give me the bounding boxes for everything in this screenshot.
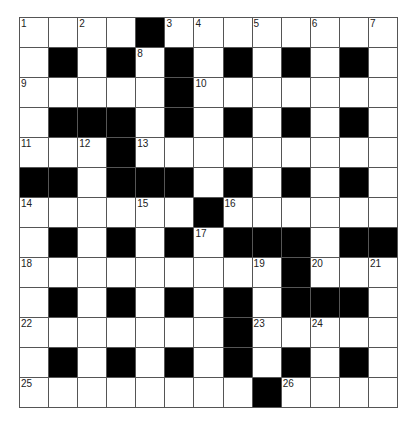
crossword-cell[interactable] [107,318,135,347]
crossword-cell[interactable] [194,318,222,347]
crossword-cell[interactable]: 7 [369,18,397,47]
crossword-cell[interactable] [107,78,135,107]
crossword-cell[interactable]: 11 [20,138,48,167]
crossword-cell[interactable]: 10 [194,78,222,107]
crossword-cell[interactable] [340,198,368,227]
crossword-cell[interactable] [340,18,368,47]
crossword-cell[interactable] [253,48,281,77]
crossword-cell[interactable] [49,198,77,227]
crossword-cell[interactable] [340,138,368,167]
crossword-cell[interactable] [311,108,339,137]
crossword-cell[interactable] [78,378,106,407]
crossword-cell[interactable] [224,378,252,407]
crossword-cell[interactable] [340,318,368,347]
crossword-cell[interactable] [253,108,281,137]
crossword-cell[interactable]: 25 [20,378,48,407]
crossword-cell[interactable] [369,348,397,377]
crossword-cell[interactable] [136,78,164,107]
crossword-cell[interactable] [194,138,222,167]
crossword-cell[interactable]: 15 [136,198,164,227]
crossword-cell[interactable] [78,318,106,347]
crossword-cell[interactable] [49,18,77,47]
crossword-cell[interactable]: 13 [136,138,164,167]
crossword-cell[interactable] [194,288,222,317]
crossword-cell[interactable] [49,258,77,287]
crossword-cell[interactable] [369,318,397,347]
crossword-cell[interactable] [224,78,252,107]
crossword-cell[interactable]: 4 [194,18,222,47]
crossword-cell[interactable]: 19 [253,258,281,287]
crossword-cell[interactable] [311,348,339,377]
crossword-cell[interactable] [136,108,164,137]
crossword-cell[interactable]: 2 [78,18,106,47]
crossword-cell[interactable] [340,258,368,287]
crossword-cell[interactable] [369,378,397,407]
crossword-cell[interactable]: 12 [78,138,106,167]
crossword-cell[interactable] [282,198,310,227]
crossword-cell[interactable] [311,168,339,197]
crossword-cell[interactable]: 22 [20,318,48,347]
crossword-cell[interactable] [311,138,339,167]
crossword-cell[interactable] [78,348,106,377]
crossword-cell[interactable] [369,108,397,137]
crossword-cell[interactable] [340,378,368,407]
crossword-cell[interactable] [107,378,135,407]
crossword-cell[interactable] [165,138,193,167]
crossword-cell[interactable]: 21 [369,258,397,287]
crossword-cell[interactable] [107,18,135,47]
crossword-cell[interactable] [78,228,106,257]
crossword-cell[interactable]: 6 [311,18,339,47]
crossword-cell[interactable] [311,78,339,107]
crossword-cell[interactable] [194,258,222,287]
crossword-cell[interactable] [20,348,48,377]
crossword-cell[interactable] [78,168,106,197]
crossword-cell[interactable] [194,378,222,407]
crossword-cell[interactable]: 20 [311,258,339,287]
crossword-cell[interactable] [20,48,48,77]
crossword-cell[interactable] [136,228,164,257]
crossword-cell[interactable] [194,168,222,197]
crossword-cell[interactable]: 5 [253,18,281,47]
crossword-cell[interactable] [20,228,48,257]
crossword-cell[interactable] [253,138,281,167]
crossword-cell[interactable] [20,108,48,137]
crossword-cell[interactable]: 23 [253,318,281,347]
crossword-cell[interactable] [107,198,135,227]
crossword-cell[interactable] [311,378,339,407]
crossword-cell[interactable]: 14 [20,198,48,227]
crossword-cell[interactable] [136,258,164,287]
crossword-cell[interactable] [165,198,193,227]
crossword-cell[interactable] [224,138,252,167]
crossword-cell[interactable] [49,78,77,107]
crossword-cell[interactable] [369,78,397,107]
crossword-cell[interactable] [253,78,281,107]
crossword-cell[interactable]: 9 [20,78,48,107]
crossword-cell[interactable] [224,18,252,47]
crossword-cell[interactable] [224,258,252,287]
crossword-cell[interactable] [136,378,164,407]
crossword-cell[interactable] [165,378,193,407]
crossword-cell[interactable]: 16 [224,198,252,227]
crossword-cell[interactable] [282,318,310,347]
crossword-cell[interactable] [78,258,106,287]
crossword-cell[interactable] [369,138,397,167]
crossword-cell[interactable]: 26 [282,378,310,407]
crossword-cell[interactable] [282,138,310,167]
crossword-cell[interactable] [194,48,222,77]
crossword-cell[interactable]: 1 [20,18,48,47]
crossword-cell[interactable] [282,78,310,107]
crossword-cell[interactable] [78,198,106,227]
crossword-cell[interactable] [194,108,222,137]
crossword-cell[interactable] [49,378,77,407]
crossword-cell[interactable] [253,348,281,377]
crossword-cell[interactable] [78,288,106,317]
crossword-cell[interactable] [78,48,106,77]
crossword-cell[interactable] [369,48,397,77]
crossword-cell[interactable]: 8 [136,48,164,77]
crossword-cell[interactable]: 18 [20,258,48,287]
crossword-cell[interactable] [311,48,339,77]
crossword-cell[interactable] [78,78,106,107]
crossword-cell[interactable] [20,288,48,317]
crossword-cell[interactable] [253,288,281,317]
crossword-cell[interactable] [136,288,164,317]
